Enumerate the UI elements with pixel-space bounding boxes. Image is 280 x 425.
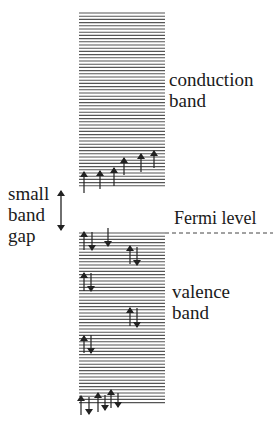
conduction-band-levels — [79, 13, 165, 186]
conduction-band-label: conduction band — [169, 69, 253, 111]
valence-band-label: valence band — [172, 281, 230, 323]
conduction-label-line-2: band — [169, 90, 253, 111]
valence-label-line-2: band — [172, 302, 230, 323]
gap-label-line-2: band — [8, 204, 49, 225]
gap-label-line-3: gap — [8, 225, 49, 246]
conduction-label-line-1: conduction — [169, 69, 253, 90]
valence-label-line-1: valence — [172, 281, 230, 302]
valence-band-levels — [79, 233, 165, 403]
band-gap-label: small band gap — [8, 183, 49, 246]
fermi-level-label: Fermi level — [174, 208, 256, 229]
gap-label-line-1: small — [8, 183, 49, 204]
